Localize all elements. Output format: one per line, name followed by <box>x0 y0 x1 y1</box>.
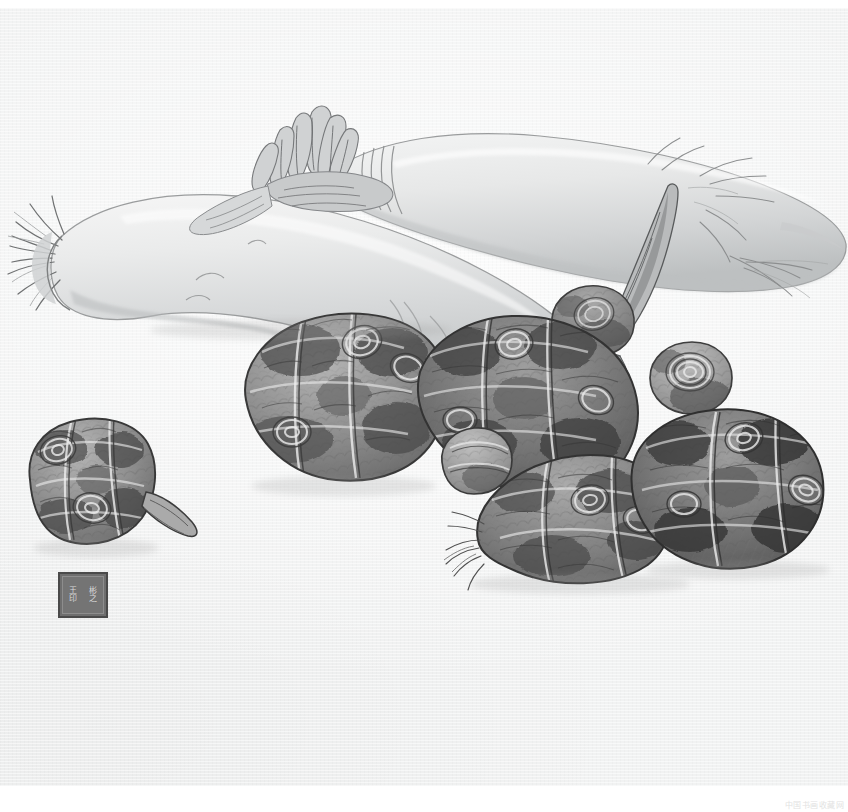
painting-layer <box>0 0 848 812</box>
seal-char-4: 之 <box>89 595 97 603</box>
seal-column-right: 王 印 <box>63 577 83 613</box>
artist-seal: 王 印 彬 之 <box>58 572 108 618</box>
site-watermark: 中国书画收藏网 <box>785 799 845 810</box>
seal-column-left: 彬 之 <box>83 577 103 613</box>
seal-char-2: 印 <box>69 595 77 603</box>
artwork-canvas: Daikon Radishes and Taro Corms <box>0 0 848 812</box>
seal-inner: 王 印 彬 之 <box>62 576 104 614</box>
taro-corm-left <box>20 405 197 560</box>
